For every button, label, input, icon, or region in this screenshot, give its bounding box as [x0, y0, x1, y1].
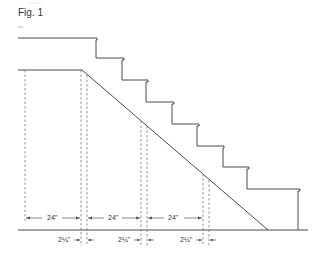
figure-label: Fig. 1 — [18, 7, 43, 18]
svg-text:2¼": 2¼" — [180, 236, 193, 243]
svg-text:2¼": 2¼" — [58, 236, 71, 243]
svg-text:24": 24" — [47, 214, 58, 221]
offset-dimension-2: 2¼" — [118, 236, 154, 243]
dimension-span-1: 24" — [26, 214, 80, 221]
svg-text:24": 24" — [108, 214, 119, 221]
dimension-span-2: 24" — [88, 214, 140, 221]
stair-profile — [18, 38, 300, 230]
staircase-figure: Fig. 1 24" 24" — [0, 0, 321, 258]
stringer-diagonal — [82, 70, 268, 230]
svg-text:2¼": 2¼" — [118, 236, 131, 243]
dimension-span-3: 24" — [148, 214, 202, 221]
offset-dimension-1: 2¼" — [58, 236, 94, 243]
svg-text:24": 24" — [168, 214, 179, 221]
offset-dimension-3: 2¼" — [180, 236, 216, 243]
